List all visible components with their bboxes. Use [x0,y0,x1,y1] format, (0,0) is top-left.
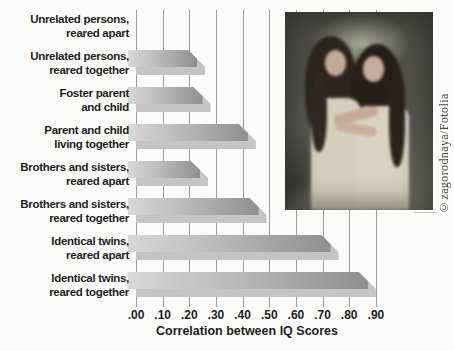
category-label-line2: reared together [49,212,129,226]
x-tick-label: .90 [363,308,389,322]
category-label: Brothers and sisters,reared apart [0,156,129,193]
category-label: Brothers and sisters,reared together [0,193,129,230]
x-tick-label: .20 [176,308,202,322]
category-label: Unrelated persons,reared together [0,45,129,82]
bar [128,272,368,289]
embracing-arm [334,120,377,137]
category-label-line1: Brothers and sisters, [20,161,129,175]
twins-photo [285,12,433,210]
category-label-line1: Unrelated persons, [30,50,129,64]
x-tick-label: .00 [123,308,149,322]
category-label: Identical twins,reared apart [0,230,129,267]
gridline-.40 [243,10,244,307]
x-tick-label: .70 [310,308,336,322]
bar [128,161,200,178]
x-tick-label: .60 [283,308,309,322]
category-label-line1: Foster parent [59,87,129,101]
category-label-line2: reared apart [66,175,129,189]
category-label-line2: reared together [49,286,129,300]
bar [128,198,259,215]
twin-right-hair-strand [389,72,405,167]
photo-credit: ©zagorodnaya/Fotolia [437,12,452,214]
x-tick-label: .40 [230,308,256,322]
twin-right-body [355,106,409,210]
gridline-.30 [216,10,217,307]
twin-right-hair [349,44,405,166]
category-label: Foster parentand child [0,82,129,119]
category-label-line1: Identical twins, [51,272,129,286]
category-label-line2: and child [81,101,129,115]
x-tick-label: .50 [256,308,282,322]
category-label-line1: Parent and child [44,124,129,138]
x-tick-label: .80 [336,308,362,322]
category-label-line2: reared together [49,64,129,78]
x-axis-title: Correlation between IQ Scores [133,324,361,338]
embracing-arm [332,105,379,127]
iq-correlation-figure: Unrelated persons,reared apartUnrelated … [0,0,454,351]
category-label: Parent and childliving together [0,119,129,156]
category-label: Unrelated persons,reared apart [0,8,129,45]
bar [128,87,203,104]
twin-left-body [311,98,361,210]
category-label-line1: Identical twins, [51,235,129,249]
bar [128,124,248,141]
photo-credit-rule [414,212,437,213]
category-label-line2: reared apart [66,249,129,263]
gridline-.50 [269,10,270,307]
x-tick-label: .30 [203,308,229,322]
category-label-line2: reared apart [66,27,129,41]
twins-photo-art [285,12,433,210]
category-label: Identical twins,reared together [0,267,129,304]
bar [128,235,331,252]
category-label-line2: living together [54,138,129,152]
twin-left-face [325,50,346,76]
twin-right-face [363,56,384,82]
twin-left-hair-strand [311,72,327,152]
twin-left-hair [305,36,357,148]
category-label-line1: Brothers and sisters, [20,198,129,212]
bar [128,50,197,67]
x-tick-label: .10 [150,308,176,322]
category-label-line1: Unrelated persons, [30,13,129,27]
